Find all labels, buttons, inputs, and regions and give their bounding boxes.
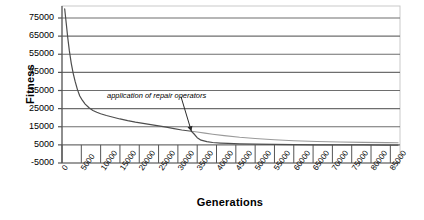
data-series-best-fitness bbox=[65, 9, 398, 145]
chart-plot-svg bbox=[0, 0, 424, 220]
annotation-arrow-line bbox=[181, 97, 191, 132]
y-tick-label: 65000 bbox=[8, 30, 54, 40]
y-tick-label: 15000 bbox=[8, 121, 54, 131]
plot-frame bbox=[62, 6, 400, 163]
y-tick-label: 25000 bbox=[8, 103, 54, 113]
x-axis-title: Generations bbox=[160, 196, 300, 208]
y-tick-label: 45000 bbox=[8, 66, 54, 76]
y-tick-label: -5000 bbox=[8, 157, 54, 167]
y-tick-label: 55000 bbox=[8, 48, 54, 58]
y-tick-label: 35000 bbox=[8, 85, 54, 95]
data-series-average-fitness bbox=[191, 131, 398, 142]
annotation-label: application of repair operators bbox=[107, 91, 206, 100]
y-tick-label: 5000 bbox=[8, 139, 54, 149]
chart-container: Fitness Generations -5000500015000250003… bbox=[0, 0, 424, 220]
y-tick-label: 75000 bbox=[8, 12, 54, 22]
